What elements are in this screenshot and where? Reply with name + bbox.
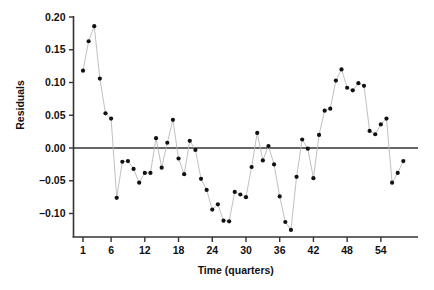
data-point: Q42: -0.046 (311, 176, 315, 180)
data-point: Q31: -0.029 (250, 165, 254, 169)
data-point: Q40: 0.013 (300, 137, 304, 141)
data-point: Q27: -0.112 (227, 219, 231, 223)
data-point: Q54: 0.036 (379, 122, 383, 126)
data-point: Q36: -0.074 (278, 194, 282, 198)
data-point: Q49: 0.088 (351, 88, 355, 92)
data-point: Q52: 0.026 (368, 129, 372, 133)
data-point: Q29: -0.071 (238, 192, 242, 196)
y-tick-label: 0.00 (45, 142, 66, 154)
data-point: Q37: -0.113 (283, 220, 287, 224)
data-point: Q39: -0.044 (294, 175, 298, 179)
data-point: Q8: -0.021 (120, 160, 124, 164)
x-tick-label: 6 (108, 244, 114, 256)
data-point: Q6: 0.045 (109, 116, 113, 120)
data-point: Q48: 0.092 (345, 86, 349, 90)
x-tick-label: 24 (206, 244, 218, 256)
data-point: Q30: -0.075 (244, 195, 248, 199)
data-point: Q55: 0.045 (384, 116, 388, 120)
data-point: Q45: 0.060 (328, 107, 332, 111)
data-point: Q44: 0.057 (323, 109, 327, 113)
data-point: Q15: -0.030 (160, 166, 164, 170)
data-point: Q21: -0.003 (193, 148, 197, 152)
data-point: Q56: -0.053 (390, 181, 394, 185)
y-tick-label: 0.05 (45, 109, 66, 121)
x-tick-label: 48 (341, 244, 353, 256)
y-axis-title: Residuals (14, 80, 26, 130)
data-point: Q58: -0.020 (401, 159, 405, 163)
data-point: Q24: -0.094 (210, 207, 214, 211)
data-point: Q26: -0.111 (221, 219, 225, 223)
data-point: Q33: -0.019 (261, 158, 265, 162)
x-tick-group: 161218243036424854 (80, 237, 387, 256)
y-tick-label: –0.05 (39, 174, 65, 186)
residual-plot-figure: –0.10–0.050.000.050.100.150.201612182430… (0, 0, 434, 290)
data-point: Q13: -0.038 (148, 171, 152, 175)
data-point: Q16: 0.008 (165, 141, 169, 145)
data-point: Q28: -0.067 (233, 190, 237, 194)
data-point: Q14: 0.015 (154, 136, 158, 140)
data-point: Q17: 0.043 (171, 118, 175, 122)
data-point: Q22: -0.047 (199, 177, 203, 181)
x-tick-label: 54 (375, 244, 387, 256)
data-point: Q20: 0.011 (188, 139, 192, 143)
axes-group (73, 16, 419, 237)
y-tick-label: 0.20 (45, 11, 66, 23)
data-point: Q41: -0.001 (306, 147, 310, 151)
data-point: Q53: 0.021 (373, 132, 377, 136)
data-point: Q46: 0.103 (334, 78, 338, 82)
data-point: Q1: 0.118 (81, 69, 85, 73)
y-tick-label: 0.15 (45, 43, 66, 55)
data-point: Q57: -0.038 (396, 171, 400, 175)
data-point: Q5: 0.053 (103, 111, 107, 115)
x-tick-label: 30 (240, 244, 252, 256)
data-point: Q23: -0.064 (205, 188, 209, 192)
data-point: Q19: -0.040 (182, 172, 186, 176)
data-point: Q11: -0.053 (137, 181, 141, 185)
data-point: Q32: 0.023 (255, 131, 259, 135)
data-point: Q34: 0.003 (266, 144, 270, 148)
y-tick-label: 0.10 (45, 76, 66, 88)
x-tick-label: 36 (274, 244, 286, 256)
data-point: Q35: -0.025 (272, 162, 276, 166)
x-axis-title: Time (quarters) (198, 264, 274, 276)
data-point: Q12: -0.038 (143, 171, 147, 175)
y-tick-label: –0.10 (39, 207, 65, 219)
y-tick-group: –0.10–0.050.000.050.100.150.20 (39, 11, 73, 220)
chart-canvas: –0.10–0.050.000.050.100.150.201612182430… (0, 0, 434, 290)
data-point: Q4: 0.106 (98, 76, 102, 80)
x-tick-label: 1 (80, 244, 86, 256)
data-point: Q9: -0.020 (126, 159, 130, 163)
x-tick-label: 12 (139, 244, 151, 256)
x-tick-label: 18 (173, 244, 185, 256)
data-point: Q18: -0.016 (176, 156, 180, 160)
data-point: Q10: -0.032 (131, 167, 135, 171)
data-point: Q51: 0.095 (362, 84, 366, 88)
data-point: Q3: 0.186 (92, 24, 96, 28)
x-tick-label: 42 (308, 244, 320, 256)
data-point: Q38: -0.125 (289, 228, 293, 232)
data-point: Q2: 0.163 (87, 39, 91, 43)
data-point: Q50: 0.099 (356, 81, 360, 85)
data-point: Q7: -0.076 (115, 196, 119, 200)
data-point: Q47: 0.120 (339, 67, 343, 71)
data-point: Q43: 0.020 (317, 133, 321, 137)
data-point-group: Q1: 0.118Q2: 0.163Q3: 0.186Q4: 0.106Q5: … (81, 24, 406, 232)
data-line (83, 26, 403, 230)
data-point: Q25: -0.086 (216, 202, 220, 206)
